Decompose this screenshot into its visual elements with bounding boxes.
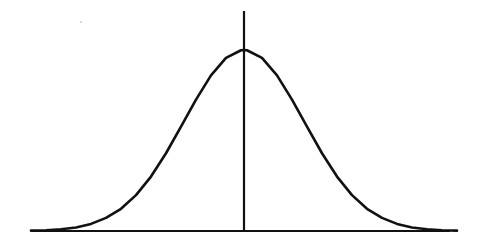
bell-curve-figure: Hand-drawn symmetric bell-shaped normal … — [0, 0, 478, 246]
scan-speck — [80, 21, 82, 23]
bell-curve-canvas — [0, 0, 478, 246]
